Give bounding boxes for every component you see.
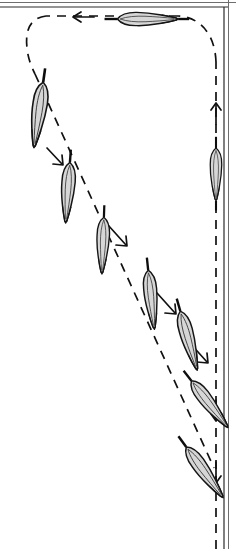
figure-root: Sequence diagram of an elongated dart-sh…: [0, 0, 236, 549]
path-segment-diagonal-descent: [35, 74, 214, 468]
arrow-top-leftward: [73, 12, 94, 22]
body-left-upper: [27, 67, 52, 148]
figure-canvas: [0, 0, 236, 549]
arrow-diagonal-2: [108, 225, 127, 246]
arrow-diagonal-1: [47, 148, 63, 165]
body-lower-2: [173, 432, 229, 502]
path-segment-top-right-corner: [178, 16, 216, 62]
path-segment-top-left-corner: [27, 16, 46, 74]
motion-path: [27, 16, 216, 549]
body-top-horizontal: [105, 12, 190, 25]
body-diagonal-2: [96, 205, 111, 274]
body-right-vertical: [210, 137, 222, 211]
body-sequence: [27, 12, 233, 501]
body-lower-1: [178, 367, 233, 432]
arrow-diagonal-3: [157, 293, 176, 314]
arrow-right-edge-up: [211, 103, 221, 124]
direction-arrows: [47, 12, 221, 483]
